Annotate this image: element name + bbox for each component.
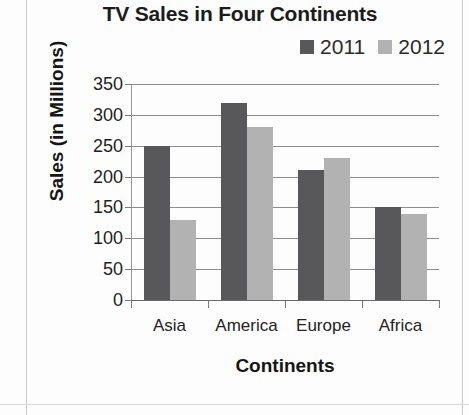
x-axis-title: Continents (131, 355, 439, 377)
x-tick-mark (131, 301, 132, 308)
gridline (131, 115, 439, 116)
frame-border-left (26, 0, 27, 415)
gridline (131, 84, 439, 85)
legend-entry-2011: 2011 (300, 36, 365, 57)
bar-america-2012 (247, 127, 273, 300)
legend-entry-2012: 2012 (378, 36, 445, 57)
x-tick-mark (439, 301, 440, 308)
y-tick-label: 350 (71, 75, 123, 93)
frame-border-bottom (0, 404, 469, 405)
y-tick-label: 100 (71, 229, 123, 247)
x-tick-mark (285, 301, 286, 308)
gridline (131, 146, 439, 147)
x-tick-label-africa: Africa (351, 316, 451, 336)
plot-area (131, 84, 439, 300)
bar-africa-2012 (401, 214, 427, 300)
bar-europe-2011 (298, 170, 324, 300)
y-tick-label: 0 (71, 291, 123, 309)
y-tick-label: 300 (71, 106, 123, 124)
y-axis-title: Sales (in Millions) (46, 21, 68, 221)
x-tick-mark (362, 301, 363, 308)
x-tick-mark (208, 301, 209, 308)
bar-europe-2012 (324, 158, 350, 300)
legend-label-2011: 2011 (320, 36, 365, 57)
chart-legend: 2011 2012 (300, 36, 445, 57)
y-tick-label: 50 (71, 260, 123, 278)
chart-figure: TV Sales in Four Continents 2011 2012 Sa… (0, 0, 469, 415)
bar-asia-2012 (170, 220, 196, 300)
chart-title: TV Sales in Four Continents (40, 2, 440, 26)
legend-label-2012: 2012 (398, 36, 445, 57)
bar-asia-2011 (144, 146, 170, 300)
y-tick-label: 150 (71, 198, 123, 216)
bar-africa-2011 (375, 207, 401, 300)
gridline (131, 177, 439, 178)
bar-america-2011 (221, 103, 247, 300)
legend-swatch-2011 (300, 40, 314, 54)
legend-swatch-2012 (378, 40, 392, 54)
y-tick-label: 200 (71, 168, 123, 186)
y-tick-label: 250 (71, 137, 123, 155)
frame-border-right (462, 0, 463, 415)
